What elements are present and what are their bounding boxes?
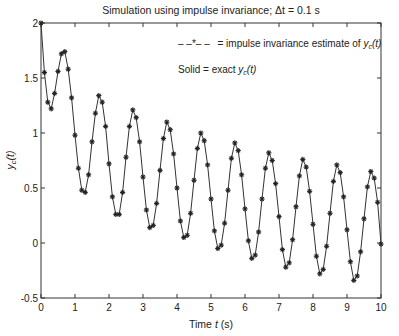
star-marker <box>195 146 200 151</box>
star-marker <box>188 211 193 216</box>
star-marker <box>300 157 305 162</box>
star-marker <box>164 119 169 124</box>
star-marker <box>246 238 251 243</box>
star-marker <box>106 161 111 166</box>
star-marker <box>198 130 203 135</box>
star-marker <box>232 140 237 145</box>
star-marker <box>130 107 135 112</box>
star-marker <box>127 124 132 129</box>
chart: Simulation using impulse invariance; Δt … <box>0 0 399 336</box>
star-marker <box>208 196 213 201</box>
star-marker <box>287 260 292 265</box>
chart-title: Simulation using impulse invariance; Δt … <box>102 4 319 16</box>
star-marker <box>191 178 196 183</box>
y-tick-label: 1 <box>32 128 38 139</box>
star-marker <box>351 278 356 283</box>
star-marker <box>307 189 312 194</box>
star-marker <box>140 174 145 179</box>
star-marker <box>38 20 43 25</box>
star-marker <box>229 156 234 161</box>
y-tick-label: 0 <box>32 238 38 249</box>
x-tick-label: 6 <box>242 302 248 313</box>
plot-area: 012345678910 -0.500.511.52 <box>21 18 387 314</box>
star-marker <box>154 201 159 206</box>
x-tick-label: 1 <box>72 302 78 313</box>
star-marker <box>144 207 149 212</box>
star-marker <box>86 172 91 177</box>
star-marker <box>212 228 217 233</box>
legend-line-1: – –*– – = impulse invariance estimate of… <box>178 38 381 50</box>
x-tick-label: 3 <box>140 302 146 313</box>
star-marker <box>236 148 241 153</box>
star-marker <box>55 69 60 74</box>
x-tick-label: 10 <box>375 302 387 313</box>
star-marker <box>365 184 370 189</box>
star-marker <box>72 133 77 138</box>
x-tick-label: 8 <box>310 302 316 313</box>
star-marker <box>358 249 363 254</box>
star-marker <box>344 227 349 232</box>
star-marker <box>338 170 343 175</box>
star-marker <box>297 173 302 178</box>
legend-marker-sample: – –*– – <box>178 38 210 49</box>
y-tick-labels: -0.500.511.52 <box>21 18 39 304</box>
y-tick-label: 2 <box>32 18 38 29</box>
star-marker <box>276 214 281 219</box>
star-marker <box>222 221 227 226</box>
star-marker <box>253 253 258 258</box>
star-marker <box>341 194 346 199</box>
x-axis-label: Time t (s) <box>189 318 233 330</box>
star-marker <box>157 168 162 173</box>
y-tick-label: 0.5 <box>24 183 38 194</box>
star-marker <box>304 165 309 170</box>
star-marker <box>219 243 224 248</box>
x-tick-labels: 012345678910 <box>38 302 387 313</box>
star-marker <box>137 139 142 144</box>
star-marker <box>331 179 336 184</box>
legend-text-estimate: = impulse invariance estimate of <box>217 38 363 49</box>
star-marker <box>89 139 94 144</box>
star-marker <box>202 138 207 143</box>
x-tick-label: 9 <box>344 302 350 313</box>
star-marker <box>321 267 326 272</box>
x-tick-label: 2 <box>106 302 112 313</box>
star-marker <box>283 265 288 270</box>
star-marker <box>327 211 332 216</box>
star-marker <box>239 172 244 177</box>
star-marker <box>280 247 285 252</box>
star-marker <box>242 206 247 211</box>
svg-text:– –*– – = impulse invari: – –*– – = impulse invariance estimate of… <box>178 38 381 50</box>
star-marker <box>76 166 81 171</box>
star-marker <box>205 162 210 167</box>
star-marker <box>290 237 295 242</box>
star-marker <box>378 242 383 247</box>
star-marker <box>120 190 125 195</box>
star-marker <box>151 223 156 228</box>
star-marker <box>334 162 339 167</box>
star-marker <box>103 124 108 129</box>
star-marker <box>310 222 315 227</box>
star-marker <box>270 158 275 163</box>
star-marker <box>317 271 322 276</box>
y-axis-label: yc(t) <box>4 151 18 171</box>
star-marker <box>168 127 173 132</box>
x-tick-label: 5 <box>208 302 214 313</box>
x-tick-label: 7 <box>276 302 282 313</box>
star-marker <box>348 259 353 264</box>
star-marker <box>171 151 176 156</box>
star-marker <box>368 169 373 174</box>
star-marker <box>324 244 329 249</box>
y-tick-label: -0.5 <box>21 293 39 304</box>
star-marker <box>225 188 230 193</box>
star-marker <box>293 204 298 209</box>
star-marker <box>110 194 115 199</box>
star-marker <box>355 273 360 278</box>
star-marker <box>174 185 179 190</box>
star-marker <box>372 176 377 181</box>
star-marker <box>273 181 278 186</box>
star-marker <box>134 115 139 120</box>
star-marker <box>263 166 268 171</box>
star-marker <box>266 150 271 155</box>
star-marker <box>185 233 190 238</box>
star-marker <box>314 254 319 259</box>
